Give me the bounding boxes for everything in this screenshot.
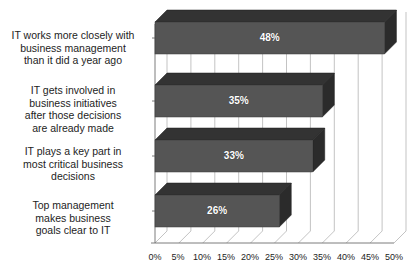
bar-value-label: 48% xyxy=(250,32,290,43)
bar-chart: IT works more closely with business mana… xyxy=(0,0,414,271)
x-tick-label: 10% xyxy=(189,252,215,263)
x-tick-label: 20% xyxy=(237,252,263,263)
x-tick-label: 35% xyxy=(309,252,335,263)
category-label: IT works more closely with business mana… xyxy=(0,29,146,67)
bar-value-label: 33% xyxy=(214,150,254,161)
x-tick-label: 25% xyxy=(261,252,287,263)
category-label: Top management makes business goals clea… xyxy=(0,199,146,237)
category-label: IT gets involved in business initiatives… xyxy=(0,84,146,134)
category-label: IT plays a key part in most critical bus… xyxy=(0,145,146,183)
x-tick-label: 30% xyxy=(285,252,311,263)
bar-value-label: 26% xyxy=(197,205,237,216)
x-tick-label: 45% xyxy=(357,252,383,263)
plot-area: 0% 5% 10% 15% 20% 25% 30% 35% 40% 45% 50… xyxy=(150,0,414,271)
bar-value-label: 35% xyxy=(219,95,259,106)
x-tick-label: 50% xyxy=(381,252,407,263)
category-label-column: IT works more closely with business mana… xyxy=(0,0,150,245)
x-tick-label: 40% xyxy=(333,252,359,263)
x-tick-label: 15% xyxy=(213,252,239,263)
x-tick-label: 5% xyxy=(165,252,191,263)
x-axis-ticks: 0% 5% 10% 15% 20% 25% 30% 35% 40% 45% 50… xyxy=(150,252,414,266)
